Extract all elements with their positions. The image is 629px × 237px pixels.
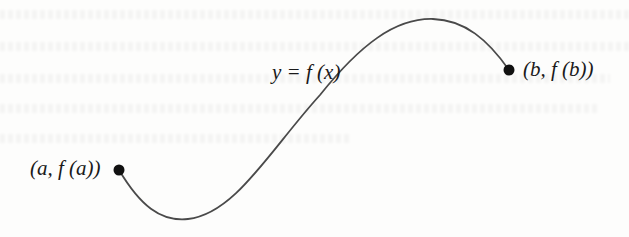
function-curve [119, 19, 509, 219]
point-a [114, 165, 125, 176]
curve-label: y = f (x) [272, 62, 340, 83]
point-b [504, 65, 515, 76]
function-diagram [0, 0, 629, 237]
right-point-label: (b, f (b)) [523, 59, 594, 80]
left-point-label: (a, f (a)) [30, 158, 101, 179]
